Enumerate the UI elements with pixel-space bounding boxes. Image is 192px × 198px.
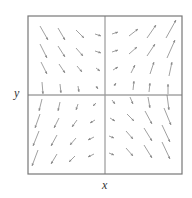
vector-arrow	[60, 84, 62, 93]
vector-arrow	[130, 97, 133, 104]
vector-arrow	[149, 83, 151, 92]
vector-arrow	[112, 50, 118, 52]
vector-arrow	[148, 97, 151, 108]
vector-arrow	[129, 47, 137, 54]
vector-arrow	[166, 20, 176, 38]
arrow-layer	[32, 20, 176, 166]
vector-arrow	[162, 142, 170, 159]
vector-arrow	[109, 136, 114, 138]
x-axis-label: x	[102, 178, 107, 193]
vector-arrow	[58, 28, 65, 40]
vector-arrow	[145, 111, 152, 124]
vector-arrow	[162, 125, 170, 142]
vector-arrow	[144, 128, 152, 141]
vector-arrow	[58, 46, 65, 57]
vector-arrow	[167, 95, 170, 110]
vector-arrow	[150, 62, 154, 74]
vector-arrow	[59, 64, 65, 73]
vector-arrow	[41, 62, 47, 74]
vector-arrow	[109, 153, 114, 155]
vector-arrow	[133, 81, 135, 90]
vector-field-plot	[0, 0, 192, 198]
vector-arrow	[131, 65, 135, 73]
vector-arrow	[57, 102, 60, 111]
vector-arrow	[88, 137, 94, 140]
vector-arrow	[114, 83, 116, 86]
vector-arrow	[164, 108, 171, 125]
vector-arrow	[147, 25, 156, 38]
y-axis-label: y	[14, 86, 19, 101]
vector-arrow	[33, 131, 39, 146]
vector-arrow	[112, 100, 115, 104]
vector-arrow	[126, 131, 133, 139]
vector-arrow	[76, 30, 84, 38]
vector-arrow	[127, 114, 134, 121]
vector-arrow	[90, 120, 95, 123]
vector-arrow	[76, 104, 78, 110]
vector-arrow	[40, 44, 47, 58]
vector-arrow	[95, 51, 101, 53]
vector-arrow	[110, 118, 115, 121]
vector-arrow	[38, 99, 42, 111]
vector-arrow	[129, 29, 138, 36]
vector-arrow	[32, 150, 38, 166]
vector-arrow	[51, 154, 57, 164]
vector-arrow	[51, 135, 57, 146]
vector-arrow	[113, 67, 118, 70]
vector-arrow	[70, 138, 76, 145]
vector-arrow	[167, 84, 169, 94]
vector-arrow	[35, 114, 40, 128]
vector-arrow	[112, 32, 118, 34]
vector-arrow	[77, 66, 82, 72]
vector-arrow	[144, 145, 152, 158]
vector-arrow	[169, 62, 173, 76]
vector-arrow	[93, 103, 96, 106]
vector-arrow	[95, 34, 101, 36]
vector-arrow	[147, 44, 155, 56]
vector-arrow	[69, 156, 75, 162]
vector-arrow	[126, 148, 133, 156]
vector-arrow	[76, 48, 83, 56]
vector-arrow	[54, 118, 59, 128]
vector-arrow	[167, 40, 175, 58]
vector-arrow	[40, 26, 48, 40]
vector-arrow	[42, 82, 44, 94]
vector-arrow	[96, 86, 98, 89]
vector-arrow	[77, 86, 79, 92]
vector-arrow	[72, 120, 77, 127]
vector-arrow	[96, 68, 100, 71]
vector-arrow	[88, 154, 94, 157]
